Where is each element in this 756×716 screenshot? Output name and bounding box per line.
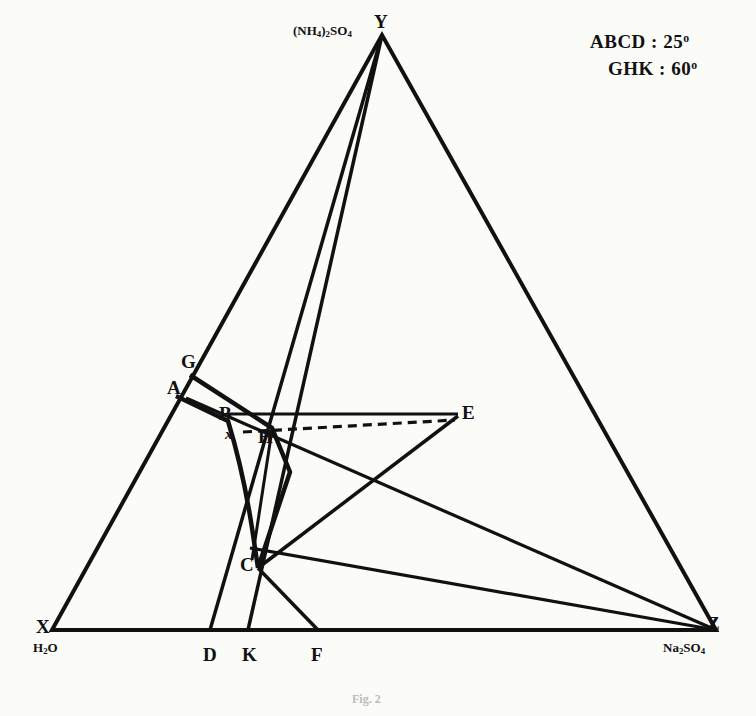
figure-caption: Fig. 2 — [352, 692, 381, 707]
point-label-F: F — [311, 645, 323, 664]
point-label-A: A — [167, 378, 181, 397]
point-label-H: H — [258, 427, 273, 446]
vertex-component-ammonium-sulfate: (NH4)2SO4 — [293, 24, 352, 39]
legend-series-abcd: ABCD — [590, 31, 646, 52]
vertex-component-H2O: H2O — [33, 641, 58, 656]
point-label-C: C — [240, 555, 254, 574]
point-label-E: E — [462, 403, 475, 422]
legend: ABCD : 25o GHK : 60o — [590, 32, 690, 70]
legend-temp-ghk: 60 — [671, 58, 691, 79]
tie-line-Z-C — [250, 548, 716, 630]
legend-colon-ghk: : — [659, 58, 666, 79]
ternary-phase-diagram-figure: X H2O Y (NH4)2SO4 Z Na2SO4 A G B x H E C… — [0, 0, 756, 716]
solubility-curve-25 — [176, 396, 258, 568]
tie-line-E-C — [258, 416, 458, 568]
point-label-B: B — [219, 404, 232, 423]
vertex-label-X: X — [36, 617, 50, 636]
triangle-outline — [52, 35, 716, 630]
vertex-label-Z: Z — [707, 614, 720, 633]
legend-degree-ghk: o — [691, 59, 697, 72]
tie-line-H-E-dashed — [243, 420, 455, 432]
point-label-K: K — [242, 645, 257, 664]
point-label-x: x — [225, 427, 233, 442]
legend-row-ghk: GHK : 60o — [608, 59, 708, 78]
legend-degree-abcd: o — [683, 32, 689, 45]
legend-series-ghk: GHK — [608, 58, 654, 79]
point-label-G: G — [181, 352, 196, 371]
vertex-label-Y: Y — [374, 12, 388, 31]
tie-line-C-F — [258, 568, 318, 630]
legend-row-abcd: ABCD : 25o — [590, 32, 690, 51]
vertex-component-sodium-sulfate: Na2SO4 — [663, 641, 705, 656]
diagram-canvas — [0, 0, 756, 716]
point-label-D: D — [203, 645, 217, 664]
legend-colon-abcd: : — [651, 31, 658, 52]
legend-temp-abcd: 25 — [663, 31, 683, 52]
